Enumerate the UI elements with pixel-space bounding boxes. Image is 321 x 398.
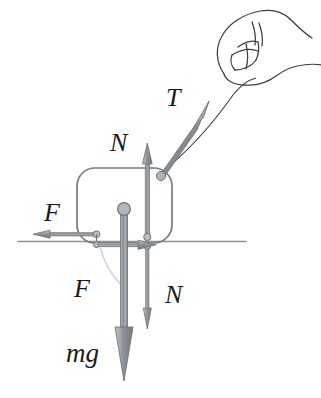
vector-weight bbox=[115, 203, 133, 381]
center-of-mass-dot bbox=[118, 203, 131, 216]
vector-normal-on-block bbox=[142, 143, 152, 241]
vector-tension bbox=[156, 101, 209, 181]
hand bbox=[217, 10, 321, 85]
vector-friction-on-block bbox=[33, 230, 100, 247]
label-friction-on-ground: F bbox=[73, 274, 91, 303]
label-tension: T bbox=[166, 83, 182, 112]
label-weight: mg bbox=[66, 338, 99, 368]
figure-canvas: T N F F N mg bbox=[0, 0, 321, 398]
label-friction-on-block: F bbox=[43, 198, 61, 227]
label-normal-down: N bbox=[164, 280, 184, 309]
vector-normal-on-ground bbox=[143, 243, 151, 329]
label-normal-up: N bbox=[109, 128, 129, 157]
free-body-diagram: T N F F N mg bbox=[0, 0, 321, 398]
